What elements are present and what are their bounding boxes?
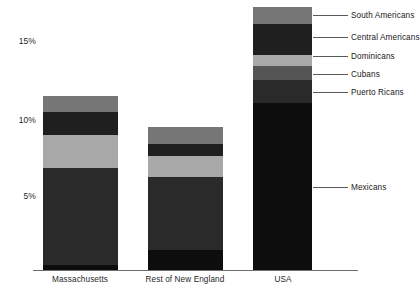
y-axis-tick-15: 15%	[8, 36, 36, 46]
callout-label-central-americans: Central Americans	[351, 33, 420, 42]
segment-puerto-ricans	[253, 80, 312, 103]
segment-south-americans	[148, 127, 223, 144]
callout-label-cubans: Cubans	[351, 70, 380, 79]
segment-cubans	[253, 66, 312, 80]
callout-label-puerto-ricans: Puerto Ricans	[351, 88, 404, 97]
callout-line-mexicans	[313, 187, 348, 188]
segment-central-americans	[253, 24, 312, 55]
segment-south-americans	[43, 96, 118, 112]
segment-mexicans	[43, 265, 118, 270]
bar-rest-of-new-england	[148, 127, 223, 270]
callout-line-central-americans	[313, 37, 348, 38]
source-caption	[78, 292, 378, 300]
callout-line-cubans	[313, 74, 348, 75]
callout-line-puerto-ricans	[313, 92, 348, 93]
x-axis-label-rest-of-new-england: Rest of New England	[146, 275, 225, 284]
callout-line-south-americans	[313, 15, 348, 16]
y-axis-tick-10: 10%	[8, 115, 36, 125]
x-axis-label-usa: USA	[274, 275, 291, 284]
callout-label-south-americans: South Americans	[351, 11, 414, 20]
y-axis-tick-5: 5%	[8, 191, 36, 201]
segment-central-americans	[148, 144, 223, 156]
callout-line-dominicans	[313, 56, 348, 57]
x-axis-label-massachusetts: Massachusetts	[52, 275, 108, 284]
bar-usa	[253, 7, 312, 270]
segment-dominicans	[148, 156, 223, 177]
callout-label-mexicans: Mexicans	[351, 183, 386, 192]
callout-label-dominicans: Dominicans	[351, 52, 395, 61]
segment-puerto-ricans	[148, 177, 223, 250]
segment-mexicans	[148, 250, 223, 270]
segment-mexicans	[253, 103, 312, 270]
segment-central-americans	[43, 112, 118, 135]
bar-massachusetts	[43, 96, 118, 270]
segment-dominicans	[43, 135, 118, 168]
segment-south-americans	[253, 7, 312, 24]
segment-puerto-ricans	[43, 168, 118, 265]
segment-dominicans	[253, 55, 312, 66]
